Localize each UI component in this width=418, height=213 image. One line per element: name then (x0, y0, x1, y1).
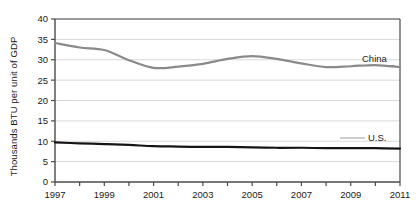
series-label-us: U.S. (368, 132, 386, 143)
series-line-us (55, 142, 400, 148)
x-tick-label: 2007 (291, 189, 312, 200)
x-tick-label: 1997 (44, 189, 65, 200)
y-tick-label: 30 (37, 54, 48, 65)
y-tick-label: 40 (37, 13, 48, 24)
x-axis-ticks: 19971999200120032005200720092011 (44, 182, 410, 200)
y-tick-label: 25 (37, 75, 48, 86)
x-tick-label: 2001 (143, 189, 164, 200)
line-chart-plot: 0510152025303540 19971999200120032005200… (0, 0, 418, 213)
y-tick-label: 0 (43, 176, 48, 187)
y-tick-label: 10 (37, 136, 48, 147)
data-series (55, 43, 400, 149)
grid-lines (55, 19, 400, 162)
x-tick-label: 2009 (340, 189, 361, 200)
chart-container: Thousands BTU per unit of GDP 0510152025… (0, 0, 418, 213)
y-tick-label: 5 (43, 156, 48, 167)
x-tick-label: 2011 (390, 189, 410, 200)
y-tick-label: 20 (37, 95, 48, 106)
x-tick-label: 2003 (192, 189, 213, 200)
series-line-china (55, 43, 400, 68)
x-tick-label: 1999 (94, 189, 115, 200)
y-tick-label: 35 (37, 34, 48, 45)
y-tick-label: 15 (37, 115, 48, 126)
x-tick-label: 2005 (242, 189, 263, 200)
series-label-china: China (362, 53, 388, 64)
y-axis-ticks: 0510152025303540 (37, 13, 55, 187)
